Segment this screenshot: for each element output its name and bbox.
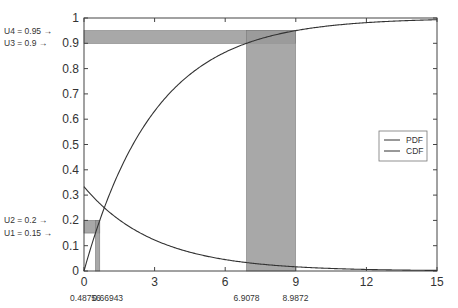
u-annotation: U2 = 0.2 →	[4, 215, 47, 225]
x-value-annotation: 8.9872	[282, 293, 308, 303]
u-annotation: U1 = 0.15 →	[4, 228, 52, 238]
x-value-annotation: 6.9078	[234, 293, 260, 303]
y-tick-label: 1	[72, 11, 79, 25]
y-tick-label: 0.8	[62, 62, 79, 76]
x-tick-label: 12	[360, 275, 374, 289]
x-tick-label: 9	[292, 275, 299, 289]
u-annotation: U4 = 0.95 →	[4, 26, 52, 36]
x-tick-label: 6	[222, 275, 229, 289]
x-tick-label: 3	[151, 275, 158, 289]
shaded-region	[247, 31, 296, 271]
y-tick-label: 0.7	[62, 87, 79, 101]
u-annotation: U3 = 0.9 →	[4, 38, 47, 48]
x-tick-label: 0	[81, 275, 88, 289]
y-tick-label: 0.2	[62, 213, 79, 227]
y-tick-label: 0.4	[62, 163, 79, 177]
y-tick-label: 0.5	[62, 138, 79, 152]
legend-label: CDF	[406, 146, 423, 156]
x-value-annotation: 0.66943	[92, 293, 123, 303]
y-tick-label: 0.9	[62, 36, 79, 50]
legend-label: PDF	[406, 135, 423, 145]
y-tick-label: 0.6	[62, 112, 79, 126]
chart: 0369121500.10.20.30.40.50.60.70.80.91U4 …	[0, 0, 458, 308]
y-tick-label: 0	[72, 264, 79, 278]
y-tick-label: 0.1	[62, 239, 79, 253]
x-tick-label: 15	[430, 275, 444, 289]
y-tick-label: 0.3	[62, 188, 79, 202]
